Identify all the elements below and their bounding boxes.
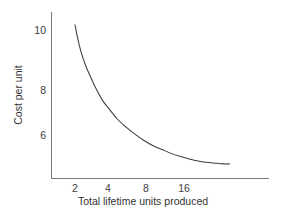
y-axis-title: Cost per unit <box>13 65 24 125</box>
y-tick-label-10: 10 <box>28 25 46 36</box>
x-tick-label-2: 2 <box>72 183 78 194</box>
x-axis-title: Total lifetime units produced <box>0 196 286 207</box>
x-tick-label-16: 16 <box>178 183 190 194</box>
cost-per-unit-curve <box>75 25 229 164</box>
x-tick-label-4: 4 <box>105 183 111 194</box>
x-tick-label-8: 8 <box>143 183 149 194</box>
y-tick-label-6: 6 <box>28 130 46 141</box>
chart-figure: 10 8 6 2 4 8 16 Cost per unit Total life… <box>0 0 286 223</box>
y-tick-label-8: 8 <box>28 85 46 96</box>
